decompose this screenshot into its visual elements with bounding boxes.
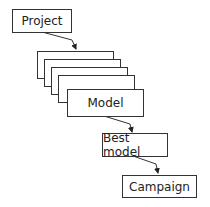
node-campaign: Campaign xyxy=(122,175,197,198)
node-model: Model xyxy=(67,89,144,117)
node-model-label: Model xyxy=(87,96,123,110)
arrow-project-to-model xyxy=(42,32,76,49)
node-best-model-label: Best model xyxy=(103,131,167,159)
node-campaign-label: Campaign xyxy=(129,180,190,194)
arrow-model-to-best-model xyxy=(104,116,132,132)
node-project-label: Project xyxy=(21,14,62,28)
node-best-model: Best model xyxy=(102,133,168,157)
node-project: Project xyxy=(12,9,72,33)
